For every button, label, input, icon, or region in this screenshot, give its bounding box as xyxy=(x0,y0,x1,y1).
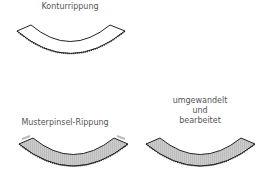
arc-musterpinsel-rippung xyxy=(19,136,128,166)
arcs-canvas xyxy=(0,0,267,185)
arc-umgewandelt xyxy=(146,138,255,166)
arc-konturrippung xyxy=(17,25,125,54)
